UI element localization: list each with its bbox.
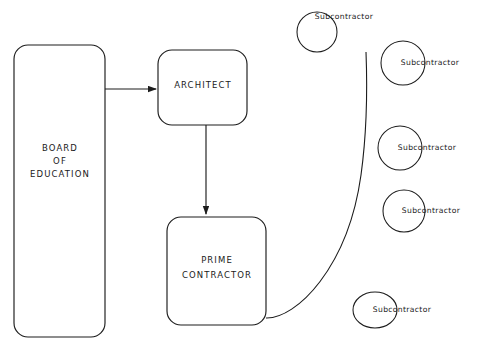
node-subcontractor-2[interactable]: Subcontractor	[381, 41, 460, 85]
board-of-education-label: BOARD	[42, 143, 78, 153]
subcontractor-1-label: Subcontractor	[315, 12, 374, 21]
org-chart-diagram: BOARD OF EDUCATION ARCHITECT PRIME CONTR…	[0, 0, 479, 353]
node-subcontractor-5[interactable]: Subcontractor	[353, 292, 432, 328]
subcontractor-2-label: Subcontractor	[401, 58, 460, 67]
architect-label: ARCHITECT	[174, 80, 232, 90]
node-architect[interactable]: ARCHITECT	[158, 50, 247, 125]
diagram-canvas: BOARD OF EDUCATION ARCHITECT PRIME CONTR…	[0, 0, 479, 353]
subcontractor-3-label: Subcontractor	[398, 143, 457, 152]
subcontractor-5-label: Subcontractor	[373, 305, 432, 314]
node-subcontractor-3[interactable]: Subcontractor	[378, 126, 457, 170]
subcontractor-4-label: Subcontractor	[402, 206, 461, 215]
connector-prime-contractor-to-subcontractors	[266, 52, 367, 318]
node-subcontractor-1[interactable]: Subcontractor	[297, 12, 374, 52]
board-of-education-label-line3: EDUCATION	[30, 169, 90, 179]
node-subcontractor-4[interactable]: Subcontractor	[383, 190, 461, 232]
board-of-education-box[interactable]	[14, 45, 105, 337]
node-board-of-education[interactable]: BOARD OF EDUCATION	[14, 45, 105, 337]
prime-contractor-label: PRIME	[201, 255, 233, 265]
prime-contractor-label-line2: CONTRACTOR	[182, 270, 252, 280]
node-prime-contractor[interactable]: PRIME CONTRACTOR	[167, 217, 266, 325]
board-of-education-label-line2: OF	[53, 156, 67, 166]
